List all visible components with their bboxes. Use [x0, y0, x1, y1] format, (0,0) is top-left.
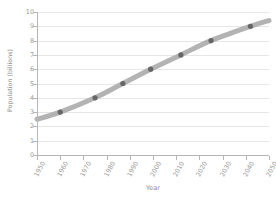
y-axis-tick-label: 10	[18, 8, 34, 16]
data-point-marker	[248, 24, 253, 29]
data-point-marker	[120, 81, 125, 86]
data-point-marker	[58, 110, 63, 115]
plot-area	[37, 12, 269, 155]
x-axis-tick-label: 1970	[79, 160, 94, 178]
data-point-marker	[148, 67, 153, 72]
y-axis-tick-label: 9	[18, 22, 34, 30]
y-axis-tick-label: 0	[18, 151, 34, 159]
x-axis-tick-label: 1960	[56, 160, 71, 178]
x-axis-tick-label: 2050	[264, 160, 276, 178]
x-axis-tick-label: 1990	[125, 160, 140, 178]
y-axis-tick-labels: 012345678910	[18, 0, 34, 160]
y-axis-tick-label: 6	[18, 65, 34, 73]
y-axis-tick-label: 8	[18, 37, 34, 45]
data-point-marker	[178, 52, 183, 57]
x-axis-tick-label: 1980	[102, 160, 117, 178]
x-axis-tick-mark	[269, 156, 270, 160]
series-layer	[37, 12, 269, 155]
data-point-marker	[208, 38, 213, 43]
x-axis-tick-label: 2010	[172, 160, 187, 178]
x-axis-tick-label: 1950	[32, 160, 47, 178]
data-point-marker	[92, 95, 97, 100]
y-axis-spine	[37, 12, 38, 156]
y-axis-tick-label: 5	[18, 80, 34, 88]
x-axis-tick-label: 2030	[218, 160, 233, 178]
y-axis-tick-label: 1	[18, 137, 34, 145]
x-axis-tick-label: 2040	[241, 160, 256, 178]
y-axis-tick-label: 4	[18, 94, 34, 102]
y-axis-title-text: Population (billions)	[7, 48, 14, 111]
y-axis-title: Population (billions)	[2, 0, 18, 160]
x-axis-tick-label: 2020	[195, 160, 210, 178]
x-axis-title: Year	[37, 184, 269, 192]
x-axis-tick-label: 2000	[148, 160, 163, 178]
y-axis-tick-label: 3	[18, 108, 34, 116]
population-line-chart: Population (billions) 012345678910 19501…	[0, 0, 276, 198]
y-axis-tick-label: 7	[18, 51, 34, 59]
x-axis-tick-labels: 1950196019701980199020002010202020302040…	[37, 160, 269, 186]
y-axis-tick-label: 2	[18, 122, 34, 130]
